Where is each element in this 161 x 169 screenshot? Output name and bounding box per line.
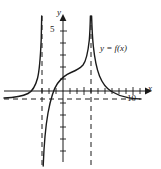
x-tick-label-10: 10 — [127, 94, 136, 103]
function-curve-label: y = f(x) — [100, 44, 127, 53]
curve-right-branch — [92, 16, 141, 99]
y-tick-label-5: 5 — [50, 25, 55, 34]
function-graph-figure: y x 5 10 y = f(x) — [0, 0, 161, 169]
curve-left-branch — [4, 16, 42, 98]
y-axis — [60, 14, 67, 162]
graph-canvas — [0, 0, 161, 169]
y-axis-label: y — [57, 8, 61, 17]
x-axis-label: x — [148, 84, 152, 93]
